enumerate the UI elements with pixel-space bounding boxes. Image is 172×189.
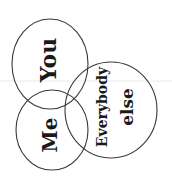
label-me: Me <box>38 118 62 153</box>
venn-diagram: You Me Everybody else <box>0 0 172 189</box>
label-everybody: Everybody <box>94 66 110 147</box>
label-else: else <box>117 88 137 126</box>
label-you: You <box>35 38 61 83</box>
circle-everybody-else <box>65 62 157 158</box>
